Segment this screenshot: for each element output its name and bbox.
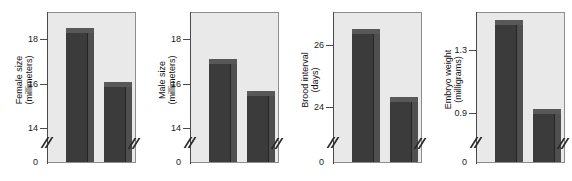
panel-brood-interval: 26 24 0 Brood interval (days) bbox=[286, 0, 429, 181]
y-axis-label-female-size: Female size (millimeters) bbox=[14, 20, 34, 140]
axis-break-right bbox=[415, 138, 426, 149]
panel-male-size: 18 16 14 0 Male size (millimeters) bbox=[143, 0, 286, 181]
y-tick bbox=[40, 39, 47, 40]
bar-female-group-2 bbox=[104, 87, 132, 162]
y-tick bbox=[40, 84, 47, 85]
bar-side-face bbox=[268, 96, 275, 162]
plot-area-embryo-weight bbox=[476, 12, 565, 163]
y-tick bbox=[469, 50, 476, 51]
bar-front-face bbox=[104, 87, 126, 162]
y-axis-label-line1: Male size bbox=[157, 61, 167, 99]
y-tick bbox=[183, 128, 190, 129]
bar-front-face bbox=[247, 96, 269, 162]
y-tick bbox=[469, 113, 476, 114]
multi-panel-figure: 18 16 14 0 Female size (millimeters) bbox=[0, 0, 572, 181]
bar-side-face bbox=[373, 34, 380, 162]
bar-side-face bbox=[411, 102, 418, 162]
y-tick-label: 0 bbox=[462, 158, 467, 167]
y-axis-label-male-size: Male size (millimeters) bbox=[157, 20, 177, 140]
y-axis-label-line2: (millimeters) bbox=[167, 56, 177, 105]
bar-male-group-2 bbox=[247, 96, 275, 162]
y-tick bbox=[326, 45, 333, 46]
y-tick bbox=[326, 107, 333, 108]
y-axis-label-line2: (days) bbox=[310, 68, 320, 93]
bar-embryo-group-2 bbox=[533, 114, 561, 162]
axis-break-right bbox=[129, 138, 140, 149]
bar-brood-group-1 bbox=[352, 34, 380, 162]
bar-front-face bbox=[495, 25, 517, 162]
bar-embryo-group-1 bbox=[495, 25, 523, 162]
y-tick bbox=[40, 128, 47, 129]
axis-break-right bbox=[272, 138, 283, 149]
bar-male-group-1 bbox=[209, 64, 237, 162]
bar-side-face bbox=[125, 87, 132, 162]
bar-front-face bbox=[66, 33, 88, 162]
y-axis-label-line1: Brood interval bbox=[300, 52, 310, 108]
axis-break-right bbox=[558, 138, 569, 149]
bar-brood-group-2 bbox=[390, 102, 418, 162]
plot-area-male-size bbox=[190, 12, 279, 163]
y-axis-label-line1: Female size bbox=[14, 56, 24, 105]
bar-front-face bbox=[352, 34, 374, 162]
y-axis-label-brood-interval: Brood interval (days) bbox=[300, 20, 320, 140]
y-axis-label-line1: Embryo weight bbox=[443, 50, 453, 110]
bar-front-face bbox=[533, 114, 555, 162]
y-axis-label-embryo-weight: Embryo weight (milligrams) bbox=[443, 17, 463, 142]
axis-break-left bbox=[328, 137, 339, 148]
bar-side-face bbox=[516, 25, 523, 162]
plot-area-female-size bbox=[47, 12, 136, 163]
y-tick bbox=[183, 84, 190, 85]
y-tick bbox=[183, 39, 190, 40]
bar-side-face bbox=[230, 64, 237, 162]
axis-break-left bbox=[471, 137, 482, 148]
bar-front-face bbox=[390, 102, 412, 162]
y-tick-label: 0 bbox=[176, 158, 181, 167]
y-axis-label-line2: (millimeters) bbox=[24, 56, 34, 105]
y-tick-label: 0 bbox=[33, 158, 38, 167]
bar-female-group-1 bbox=[66, 33, 94, 162]
axis-break-left bbox=[185, 137, 196, 148]
axis-break-left bbox=[42, 137, 53, 148]
y-axis-label-line2: (milligrams) bbox=[453, 56, 463, 103]
panel-female-size: 18 16 14 0 Female size (millimeters) bbox=[0, 0, 143, 181]
panel-embryo-weight: 1.3 0.9 0 Embryo weight (milligrams) bbox=[429, 0, 572, 181]
y-tick-label: 0 bbox=[319, 158, 324, 167]
bar-front-face bbox=[209, 64, 231, 162]
bar-side-face bbox=[87, 33, 94, 162]
plot-area-brood-interval bbox=[333, 12, 422, 163]
